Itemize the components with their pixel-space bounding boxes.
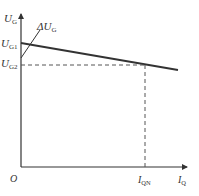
origin-label: O: [10, 173, 17, 184]
delta-ug-label: ΔUG: [36, 20, 56, 34]
iqn-label: IQN: [137, 174, 151, 186]
y-axis-label: UG: [4, 12, 17, 26]
x-axis-label: IQ: [177, 174, 186, 186]
characteristic-line: [21, 43, 178, 70]
ug1-label: UG1: [1, 37, 18, 51]
ug2-label: UG2: [1, 57, 18, 71]
diagram-canvas: UG UG1 UG2 ΔUG O IQN IQ: [0, 0, 199, 196]
